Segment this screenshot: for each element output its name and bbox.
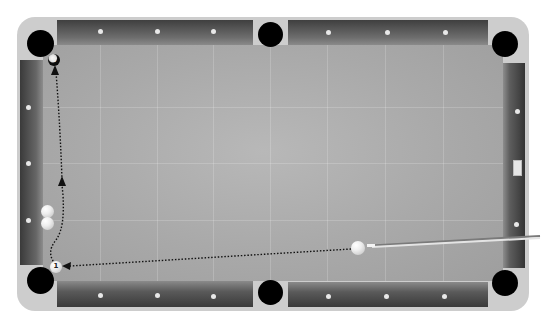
cue-stick[interactable] xyxy=(367,236,540,247)
arrow-icon xyxy=(51,65,71,270)
object-ball-1[interactable]: 1 xyxy=(50,261,62,273)
target-ball-8[interactable]: 8 xyxy=(48,54,60,66)
cue-ball[interactable] xyxy=(351,241,365,255)
shot-path-line xyxy=(51,72,351,266)
shot-path-overlay xyxy=(0,0,547,320)
ball-number: 8 xyxy=(48,54,60,66)
ball-number: 1 xyxy=(50,261,62,273)
blocker-ball[interactable] xyxy=(41,217,54,230)
